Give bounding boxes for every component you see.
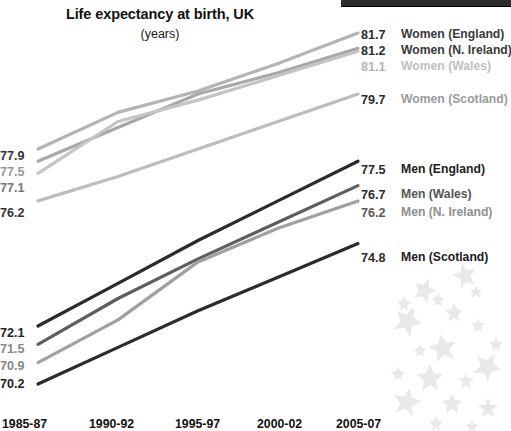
series-line-women-wales (38, 51, 358, 173)
end-value-women-england: 81.7 (361, 28, 386, 42)
series-paths-group (38, 33, 358, 384)
chart-container: Life expectancy at birth, UK (years) 77.… (0, 0, 511, 431)
legend-label-men-wales: Men (Wales) (401, 187, 472, 201)
start-value-women-wales: 77.1 (0, 181, 44, 195)
series-line-women-england (38, 33, 358, 149)
series-line-men-scotland (38, 244, 358, 384)
start-value-women-nireland: 77.5 (0, 165, 44, 179)
xtick-1995-97: 1995-97 (175, 417, 220, 431)
xtick-2000-02: 2000-02 (257, 417, 302, 431)
legend-label-men-nireland: Men (N. Ireland) (401, 205, 492, 219)
start-value-men-scotland: 70.2 (0, 377, 44, 391)
end-value-men-england: 77.5 (361, 163, 386, 177)
xtick-2005-07: 2005-07 (336, 417, 381, 431)
end-value-men-nireland: 76.2 (361, 206, 386, 220)
legend-label-women-scotland: Women (Scotland) (401, 92, 508, 106)
xtick-1985-87: 1985-87 (2, 417, 47, 431)
series-line-men-n-ireland (38, 201, 358, 363)
end-value-women-wales: 81.1 (361, 60, 386, 74)
legend-label-women-nireland: Women (N. Ireland) (401, 43, 511, 57)
end-value-men-wales: 76.7 (361, 188, 386, 202)
legend-label-women-england: Women (England) (401, 27, 504, 41)
legend-label-women-wales: Women (Wales) (401, 59, 491, 73)
start-value-men-nireland: 70.9 (0, 359, 44, 373)
start-value-men-england: 72.1 (0, 326, 44, 340)
legend-label-men-scotland: Men (Scotland) (401, 250, 488, 264)
end-value-women-nireland: 81.2 (361, 44, 386, 58)
start-value-men-wales: 71.5 (0, 342, 44, 356)
start-value-women-england: 77.9 (0, 149, 44, 163)
xtick-1990-92: 1990-92 (89, 417, 134, 431)
start-value-women-scotland: 76.2 (0, 206, 44, 220)
end-value-women-scotland: 79.7 (361, 93, 386, 107)
legend-label-men-england: Men (England) (401, 162, 485, 176)
end-value-men-scotland: 74.8 (361, 251, 386, 265)
